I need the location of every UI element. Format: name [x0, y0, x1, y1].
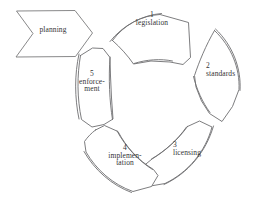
licensing-name: licensing — [173, 149, 233, 157]
label-enforcement: 5 enforce- ment — [67, 70, 117, 93]
standards-name: standards — [206, 70, 267, 78]
implementation-name-line2: tation — [92, 159, 158, 167]
label-licensing: 3 licensing — [173, 141, 233, 156]
enforcement-name-line2: ment — [67, 85, 117, 93]
legislation-name: legislation — [121, 19, 183, 27]
planning-label-text: planning — [22, 26, 84, 34]
label-implementation: 4 implemen- tation — [92, 144, 158, 167]
label-legislation: 1 legislation — [121, 11, 183, 26]
label-standards: 2 standards — [206, 62, 267, 77]
diagram-canvas: planning 1 legislation 2 standards 3 lic… — [0, 0, 267, 210]
label-planning: planning — [22, 26, 84, 34]
